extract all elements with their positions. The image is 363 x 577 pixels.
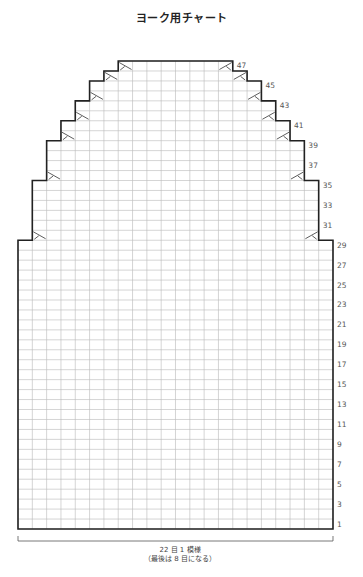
row-label: 23 xyxy=(337,300,347,309)
row-label: 39 xyxy=(308,141,318,150)
repeat-caption: 22 目 1 模様 （最後は 8 目になる） xyxy=(100,546,260,564)
row-label: 45 xyxy=(265,81,275,90)
row-label: 43 xyxy=(280,101,290,110)
row-label: 9 xyxy=(337,440,342,449)
left-decrease-mark-icon xyxy=(119,63,131,70)
right-decrease-mark-icon xyxy=(248,92,260,99)
row-label: 5 xyxy=(337,480,342,489)
chart-grid xyxy=(18,61,333,529)
row-label: 29 xyxy=(337,241,347,250)
row-label: 17 xyxy=(337,360,347,369)
row-label: 1 xyxy=(337,520,342,529)
left-decrease-mark-icon xyxy=(105,72,117,79)
left-decrease-mark-icon xyxy=(91,92,103,99)
left-decrease-mark-icon xyxy=(33,232,45,239)
right-decrease-mark-icon xyxy=(234,72,246,79)
right-decrease-mark-icon xyxy=(305,232,317,239)
row-number-labels: 1357911131517192123252729313335373941434… xyxy=(237,61,347,528)
left-decrease-mark-icon xyxy=(48,172,60,179)
row-label: 7 xyxy=(337,460,342,469)
row-label: 15 xyxy=(337,380,347,389)
repeat-label: 22 目 1 模様 xyxy=(100,546,260,555)
row-label: 3 xyxy=(337,500,342,509)
row-label: 37 xyxy=(308,161,318,170)
row-label: 27 xyxy=(337,261,347,270)
repeat-bracket xyxy=(18,536,333,541)
right-decrease-mark-icon xyxy=(219,63,231,70)
row-label: 41 xyxy=(294,121,304,130)
row-label: 19 xyxy=(337,340,347,349)
row-label: 47 xyxy=(237,61,247,70)
repeat-note: （最後は 8 目になる） xyxy=(100,555,260,564)
row-label: 33 xyxy=(323,201,333,210)
row-label: 25 xyxy=(337,281,347,290)
row-label: 31 xyxy=(323,221,333,230)
right-decrease-mark-icon xyxy=(262,112,274,119)
row-label: 35 xyxy=(323,181,333,190)
left-decrease-mark-icon xyxy=(62,132,74,139)
right-decrease-mark-icon xyxy=(291,172,303,179)
yoke-knitting-chart: 1357911131517192123252729313335373941434… xyxy=(0,0,363,577)
row-label: 11 xyxy=(337,420,347,429)
row-label: 13 xyxy=(337,400,347,409)
row-label: 21 xyxy=(337,320,347,329)
right-decrease-mark-icon xyxy=(277,132,289,139)
left-decrease-mark-icon xyxy=(76,112,88,119)
